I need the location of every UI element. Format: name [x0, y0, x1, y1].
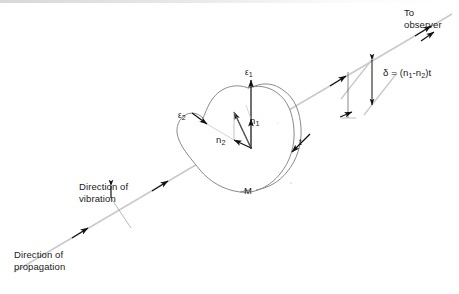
label-n-1: n1 — [250, 115, 259, 129]
label-thickness: t — [299, 136, 302, 148]
n1-subscript: 1 — [408, 71, 412, 80]
equals-sign: = — [391, 67, 397, 78]
epsilon-2-subscript: 2 — [182, 113, 186, 122]
t-symbol: t — [428, 67, 431, 78]
epsilon-1-subscript: 1 — [249, 70, 253, 79]
n2-sub: 2 — [221, 138, 225, 147]
label-direction-of-vibration: Direction of vibration — [79, 181, 128, 204]
mineral-grain-outline — [177, 84, 301, 192]
label-direction-of-propagation: Direction of propagation — [14, 249, 65, 272]
delta-symbol: δ — [383, 67, 388, 78]
diagram-canvas: To observer δ = (n1-n2)t ε1 ε2 n1 n2 t M… — [0, 0, 459, 294]
label-mineral-grain: M — [244, 185, 252, 197]
label-to-observer: To observer — [404, 7, 442, 30]
label-epsilon-2: ε2 — [178, 109, 186, 123]
n2-subscript: 2 — [421, 71, 425, 80]
label-n-2: n2 — [216, 134, 225, 148]
label-epsilon-1: ε1 — [245, 66, 253, 80]
observer-leader — [421, 32, 434, 41]
diagram-vector-layer — [0, 0, 459, 294]
label-retardation-equation: δ = (n1-n2)t — [383, 67, 431, 81]
n1-sub: 1 — [255, 119, 259, 128]
